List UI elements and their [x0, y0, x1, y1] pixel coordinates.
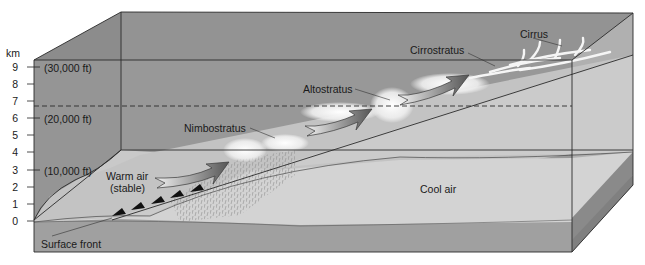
axis-tick-8: 8	[6, 78, 18, 90]
label-nimbostratus: Nimbostratus	[184, 122, 246, 134]
label-surface-front: Surface front	[41, 238, 101, 250]
label-altostratus: Altostratus	[303, 83, 353, 95]
feet-label-30000: (30,000 ft)	[44, 62, 92, 74]
axis-unit-label: km	[6, 47, 20, 59]
label-cool-air: Cool air	[420, 183, 456, 195]
axis-tick-2: 2	[6, 181, 18, 193]
axis-tick-9: 9	[6, 61, 18, 73]
diagram-canvas	[0, 0, 645, 265]
axis-tick-3: 3	[6, 164, 18, 176]
cloud-nimbostratus-2	[261, 134, 309, 152]
axis-tick-7: 7	[6, 95, 18, 107]
axis-tick-5: 5	[6, 129, 18, 141]
warm-front-diagram: km 9 8 7 6 5 4 3 2 1 0 (30,000 ft) (20,0…	[0, 0, 645, 265]
feet-label-10000: (10,000 ft)	[44, 165, 92, 177]
axis-tick-0: 0	[6, 215, 18, 227]
label-warm-air: Warm air	[106, 170, 148, 182]
cloud-altostratus-2	[370, 87, 414, 123]
axis-tick-4: 4	[6, 146, 18, 158]
axis-tick-6: 6	[6, 112, 18, 124]
axis-tick-1: 1	[6, 198, 18, 210]
label-warm-air-stable: (stable)	[110, 182, 145, 194]
label-cirrostratus: Cirrostratus	[410, 44, 464, 56]
feet-label-20000: (20,000 ft)	[44, 113, 92, 125]
label-cirrus: Cirrus	[520, 28, 548, 40]
